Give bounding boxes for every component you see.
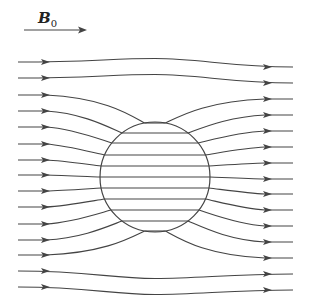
- field-line: [205, 147, 293, 155]
- field-line: [18, 111, 122, 133]
- field-line: [209, 188, 293, 194]
- field-lines-figure: [0, 0, 309, 308]
- field-line: [18, 59, 293, 68]
- field-line: [165, 231, 293, 258]
- field-line: [18, 199, 105, 207]
- field-line: [18, 75, 293, 84]
- field-line: [18, 188, 101, 191]
- field-line: [209, 163, 293, 166]
- field-lines: [18, 59, 293, 295]
- field-line: [18, 144, 105, 155]
- field-line: [18, 95, 145, 123]
- field-line: [198, 131, 293, 143]
- field-line: [199, 210, 293, 226]
- field-line: [18, 127, 112, 143]
- b0-label: B0: [38, 9, 57, 29]
- field-line: [188, 115, 293, 133]
- field-line: [205, 199, 293, 210]
- field-line: [210, 177, 293, 179]
- magnetic-field-diagram: B0: [0, 0, 309, 308]
- field-line: [18, 160, 101, 166]
- field-line: [18, 271, 293, 279]
- field-line: [18, 210, 111, 224]
- field-line: [18, 287, 293, 295]
- field-line: [18, 175, 100, 177]
- field-line: [188, 221, 293, 242]
